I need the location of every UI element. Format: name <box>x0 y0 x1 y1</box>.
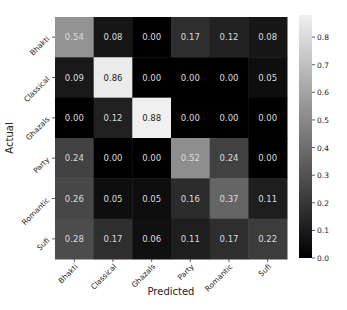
y-tick-label: Ghazals <box>24 115 51 142</box>
y-tick-label: Classical <box>22 75 51 104</box>
colorbar-tick-label: 0.6 <box>317 88 329 97</box>
x-tick-label: Sufi <box>257 262 274 279</box>
colorbar-gradient <box>299 15 312 258</box>
y-tick-label: Bhakti <box>28 34 51 57</box>
colorbar-tick-label: 0.1 <box>317 226 329 235</box>
cell-value: 0.08 <box>258 32 277 42</box>
y-axis-label: Actual <box>4 122 15 153</box>
cell-value: 0.28 <box>65 234 84 244</box>
cell-value: 0.11 <box>258 194 277 204</box>
cell-value: 0.00 <box>142 153 161 163</box>
cell-value: 0.00 <box>258 153 277 163</box>
x-tick-label: Romantic <box>203 262 234 293</box>
cell-value: 0.09 <box>65 73 84 83</box>
colorbar-tick-label: 0.3 <box>317 171 329 180</box>
cell-value: 0.05 <box>142 194 161 204</box>
cell-value: 0.05 <box>258 73 277 83</box>
cell-value: 0.88 <box>142 113 161 123</box>
cell-value: 0.00 <box>181 113 200 123</box>
cell-value: 0.24 <box>65 153 84 163</box>
confusion-matrix-chart: 0.540.080.000.170.120.080.090.860.000.00… <box>0 0 347 310</box>
y-axis-ticks: BhaktiClassicalGhazalsPartyRomanticSufi <box>20 34 55 252</box>
cell-value: 0.00 <box>142 73 161 83</box>
y-tick-label: Sufi <box>35 236 52 253</box>
heatmap-grid: 0.540.080.000.170.120.080.090.860.000.00… <box>55 17 288 260</box>
cell-value: 0.86 <box>104 73 123 83</box>
cell-value: 0.00 <box>104 153 123 163</box>
cell-value: 0.08 <box>104 32 123 42</box>
colorbar-tick-label: 0.8 <box>317 33 329 42</box>
cell-value: 0.22 <box>258 234 277 244</box>
cell-value: 0.00 <box>258 113 277 123</box>
cell-value: 0.05 <box>104 194 123 204</box>
cell-value: 0.00 <box>220 73 239 83</box>
cell-value: 0.17 <box>220 234 239 244</box>
colorbar-tick-label: 0.4 <box>317 144 329 153</box>
cell-value: 0.52 <box>181 153 200 163</box>
cell-value: 0.37 <box>220 194 239 204</box>
x-tick-label: Party <box>176 262 196 282</box>
colorbar-tick-label: 0.7 <box>317 61 329 70</box>
cell-value: 0.00 <box>65 113 84 123</box>
x-tick-label: Bhakti <box>57 262 80 285</box>
cell-value: 0.17 <box>181 32 200 42</box>
cell-value: 0.06 <box>142 234 161 244</box>
y-tick-label: Party <box>31 155 51 175</box>
colorbar-ticks: 0.00.10.20.30.40.50.60.70.8 <box>312 33 329 263</box>
colorbar-tick-label: 0.2 <box>317 199 329 208</box>
cell-value: 0.00 <box>181 73 200 83</box>
cell-value: 0.16 <box>181 194 200 204</box>
cell-value: 0.12 <box>104 113 123 123</box>
colorbar <box>299 15 312 258</box>
cell-value: 0.17 <box>104 234 123 244</box>
x-axis-label: Predicted <box>148 286 195 297</box>
cell-value: 0.12 <box>220 32 239 42</box>
colorbar-tick-label: 0.0 <box>317 254 329 263</box>
cell-value: 0.00 <box>142 32 161 42</box>
cell-value: 0.11 <box>181 234 200 244</box>
colorbar-tick-label: 0.5 <box>317 116 329 125</box>
cell-value: 0.00 <box>220 113 239 123</box>
cell-value: 0.24 <box>220 153 239 163</box>
cell-value: 0.54 <box>65 32 84 42</box>
x-tick-label: Classical <box>89 262 118 291</box>
y-tick-label: Romantic <box>20 196 51 227</box>
cell-value: 0.26 <box>65 194 84 204</box>
